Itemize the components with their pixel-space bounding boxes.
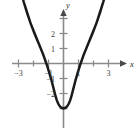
x-tick-label-neg3: −3 <box>14 69 23 78</box>
x-tick-label-pos1: 1 <box>77 69 81 78</box>
y-tick-label-neg2: −2 <box>46 90 55 99</box>
x-axis-arrowhead <box>120 60 127 66</box>
y-tick-label-pos2: 2 <box>51 30 55 39</box>
y-axis-arrowhead <box>60 9 66 16</box>
x-tick-label-pos3: 3 <box>107 69 111 78</box>
y-axis-label: y <box>65 0 70 10</box>
y-tick-label-neg1: −1 <box>46 75 55 84</box>
y-tick-label-pos1: 1 <box>51 45 55 54</box>
coordinate-plot: −3 −1 1 3 2 1 −1 −2 x y <box>0 0 139 140</box>
x-axis-label: x <box>129 59 134 69</box>
graph-figure: −3 −1 1 3 2 1 −1 −2 x y <box>0 0 139 140</box>
